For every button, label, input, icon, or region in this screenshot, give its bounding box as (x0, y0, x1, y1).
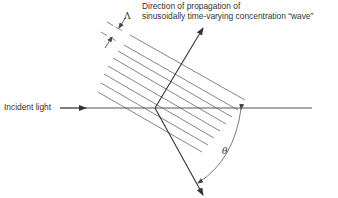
diagram-figure: Direction of propagation of sinusoidally… (0, 0, 338, 198)
grating-spacing-label: Λ (124, 11, 131, 21)
spacing-indicator (105, 17, 126, 48)
propagation-label: Direction of propagation of sinusoidally… (142, 1, 313, 21)
grating-plane-5 (108, 66, 220, 131)
propagation-label-line-2: sinusoidally time-varying concentration … (142, 11, 313, 21)
grating-plane-7 (101, 83, 208, 145)
grating-plane-6 (104, 74, 214, 138)
grating-plane-dashed-2-cont (124, 45, 238, 110)
propagation-label-line-1: Direction of propagation of (142, 1, 313, 11)
diffracted-ray-arrow (155, 108, 203, 195)
angle-label: θ (222, 146, 227, 156)
diagram-canvas (0, 0, 338, 198)
grating-planes (98, 22, 245, 152)
grating-plane-4 (113, 58, 226, 124)
incident-light-label: Incident light (4, 102, 51, 112)
